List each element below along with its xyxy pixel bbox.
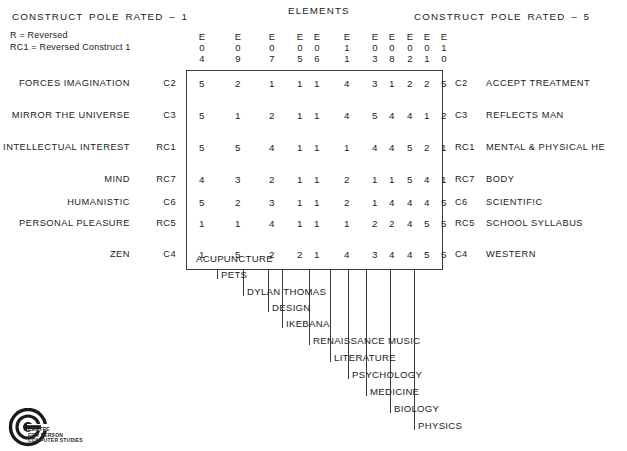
column-header-11-l2: 1 xyxy=(428,43,460,53)
element-label-7: LITERATURE xyxy=(334,352,396,363)
element-label-8: PSYCHOLOGY xyxy=(352,369,422,380)
cell-r2-c2: 1 xyxy=(235,111,241,121)
construct-left-label-5: HUMANISTIC xyxy=(0,198,130,207)
element-label-5: IKEBANA xyxy=(286,318,330,329)
leader-line-8 xyxy=(348,270,349,379)
cell-r6-c3: 4 xyxy=(269,219,275,229)
cell-r4-c8: 1 xyxy=(389,175,395,185)
cell-r3-c2: 5 xyxy=(235,143,241,153)
construct-right-code-4: RC7 xyxy=(455,175,475,184)
construct-left-code-2: C3 xyxy=(134,111,176,120)
construct-right-label-5: SCIENTIF!C xyxy=(486,198,543,207)
column-header-2-l3: 9 xyxy=(222,54,254,64)
construct-left-label-7: ZEN xyxy=(0,250,130,259)
right-pole-heading: CONSTRUCT POLE RATED – 5 xyxy=(414,12,590,22)
cell-r4-c2: 3 xyxy=(235,175,241,185)
cell-r6-c8: 2 xyxy=(389,219,395,229)
cell-r5-c10: 4 xyxy=(424,198,430,208)
cell-r1-c3: 1 xyxy=(269,79,275,89)
cell-r6-c11: 5 xyxy=(441,219,447,229)
construct-right-label-7: WESTERN xyxy=(486,250,536,259)
element-label-10: BIOLOGY xyxy=(394,403,439,414)
element-label-6: RENAISSANCE MUSIC xyxy=(313,335,420,346)
construct-right-label-1: ACCEPT TREATMENT xyxy=(486,79,590,88)
column-header-1-l1: E xyxy=(186,32,218,42)
cell-r3-c6: 1 xyxy=(344,143,350,153)
column-header-2-l1: E xyxy=(222,32,254,42)
construct-right-code-5: C6 xyxy=(455,198,468,207)
cell-r1-c6: 4 xyxy=(344,79,350,89)
cell-r7-c10: 5 xyxy=(424,250,430,260)
column-header-1-l2: 0 xyxy=(186,43,218,53)
construct-right-label-3: MENTAL & PHYSICAL HE xyxy=(486,143,605,152)
cell-r2-c1: 5 xyxy=(199,111,205,121)
ratings-grid xyxy=(186,70,443,270)
cell-r6-c9: 4 xyxy=(407,219,413,229)
construct-right-code-2: C3 xyxy=(455,111,468,120)
grid-chart-page: CONSTRUCT POLE RATED – 1 ELEMENTS CONSTR… xyxy=(0,0,627,451)
construct-left-code-7: C4 xyxy=(134,250,176,259)
construct-right-code-6: RC5 xyxy=(455,219,475,228)
cell-r2-c7: 5 xyxy=(372,111,378,121)
construct-right-label-2: REFLECTS MAN xyxy=(486,111,564,120)
construct-left-label-1: FORCES IMAGINATION xyxy=(0,79,130,88)
cell-r1-c5: 1 xyxy=(314,79,320,89)
logo-line-3: COMPUTER STUDIES xyxy=(28,437,83,443)
cell-r6-c7: 2 xyxy=(372,219,378,229)
column-header-5-l2: 0 xyxy=(301,43,333,53)
cell-r5-c4: 1 xyxy=(297,198,303,208)
cell-r2-c10: 1 xyxy=(424,111,430,121)
cell-r3-c11: 1 xyxy=(441,143,447,153)
construct-left-code-3: RC1 xyxy=(134,143,176,152)
cell-r1-c1: 5 xyxy=(199,79,205,89)
column-header-5-l1: E xyxy=(301,32,333,42)
cell-r7-c11: 5 xyxy=(441,250,447,260)
cell-r7-c9: 4 xyxy=(407,250,413,260)
cell-r4-c6: 2 xyxy=(344,175,350,185)
cell-r2-c8: 4 xyxy=(389,111,395,121)
construct-left-label-4: MIND xyxy=(0,175,130,184)
element-label-4: DESIGN xyxy=(272,302,311,313)
cell-r5-c5: 1 xyxy=(314,198,320,208)
elements-heading: ELEMENTS xyxy=(288,6,350,16)
cell-r1-c10: 2 xyxy=(424,79,430,89)
cell-r6-c2: 1 xyxy=(235,219,241,229)
cell-r2-c5: 1 xyxy=(314,111,320,121)
cell-r4-c1: 4 xyxy=(199,175,205,185)
element-label-9: MEDICINE xyxy=(370,386,419,397)
cell-r4-c9: 5 xyxy=(407,175,413,185)
cell-r7-c4: 2 xyxy=(297,250,303,260)
cell-r6-c1: 1 xyxy=(199,219,205,229)
column-header-5-l3: 6 xyxy=(301,54,333,64)
cell-r1-c2: 2 xyxy=(235,79,241,89)
column-header-1-l3: 4 xyxy=(186,54,218,64)
column-header-2-l2: 0 xyxy=(222,43,254,53)
construct-left-label-6: PERSONAL PLEASURE xyxy=(0,219,130,228)
column-header-11-l1: E xyxy=(428,32,460,42)
cell-r3-c7: 4 xyxy=(372,143,378,153)
construct-left-code-6: RC5 xyxy=(134,219,176,228)
construct-left-code-1: C2 xyxy=(134,79,176,88)
element-label-2: PETS xyxy=(221,269,247,280)
cell-r7-c8: 4 xyxy=(389,250,395,260)
construct-right-label-4: BODY xyxy=(486,175,514,184)
cell-r6-c10: 5 xyxy=(424,219,430,229)
legend-reversed-construct: RC1 = Reversed Construct 1 xyxy=(10,43,131,52)
legend-reversed: R = Reversed xyxy=(10,31,68,40)
cell-r4-c4: 1 xyxy=(297,175,303,185)
cell-r5-c9: 4 xyxy=(407,198,413,208)
element-label-3: DYLAN THOMAS xyxy=(247,286,326,297)
cell-r1-c4: 1 xyxy=(297,79,303,89)
construct-right-code-3: RC1 xyxy=(455,143,475,152)
cell-r5-c6: 2 xyxy=(344,198,350,208)
cell-r2-c11: 2 xyxy=(441,111,447,121)
construct-left-code-5: C6 xyxy=(134,198,176,207)
cell-r5-c8: 4 xyxy=(389,198,395,208)
cell-r4-c3: 2 xyxy=(269,175,275,185)
cell-r1-c9: 2 xyxy=(407,79,413,89)
cell-r1-c11: 5 xyxy=(441,79,447,89)
cell-r2-c4: 1 xyxy=(297,111,303,121)
element-label-11: PHYSICS xyxy=(418,420,462,431)
cell-r4-c10: 4 xyxy=(424,175,430,185)
cell-r7-c6: 4 xyxy=(344,250,350,260)
